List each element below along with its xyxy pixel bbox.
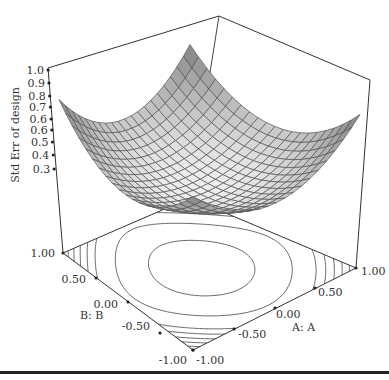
a-tick-label: -1.00 [196,354,224,367]
z-tick-label: 1.0 [27,64,45,77]
b-tick-label: 0.50 [62,273,87,286]
z-tick-mark [53,167,56,170]
z-tick-mark [47,68,50,71]
z-tick-mark [50,117,53,120]
b-tick-label: -0.50 [122,320,150,333]
a-axis-label: A: A [291,321,316,334]
contour-line [149,240,255,296]
z-tick-mark [48,94,51,97]
a-tick-label: -0.50 [238,328,266,341]
z-tick-mark [49,105,52,108]
z-tick-label: 0.4 [32,149,50,162]
b-tick-label: 1.00 [31,247,56,260]
a-tick-label: 0.00 [276,308,301,321]
z-tick-mark [50,128,53,131]
a-tick-mark [232,327,235,330]
b-tick-mark [94,276,97,279]
b-tick-mark [126,300,129,303]
z-axis-label: Std Err of design [9,87,22,183]
z-tick-mark [52,153,55,156]
a-tick-mark [354,266,357,269]
a-tick-mark [191,348,194,351]
z-tick-mark [51,140,54,143]
a-tick-label: 0.50 [318,286,343,299]
z-tick-label: 0.5 [31,136,49,149]
z-tick-mark [47,81,50,84]
surface-mesh [59,45,360,214]
bottom-rule [0,371,389,374]
a-tick-mark [313,286,316,289]
z-tick-label: 0.3 [33,163,51,176]
surface-plot: 1.00.90.80.70.60.60.50.40.3-1.00-0.500.0… [0,0,389,380]
b-tick-label: -1.00 [159,354,187,367]
right-edge [356,80,370,268]
b-axis-label: B: B [80,309,103,322]
contour-line [115,223,292,316]
b-tick-mark [61,251,64,254]
b-tick-mark [158,331,161,334]
z-tick-label: 0.9 [27,77,45,90]
a-tick-label: 1.00 [361,265,386,278]
